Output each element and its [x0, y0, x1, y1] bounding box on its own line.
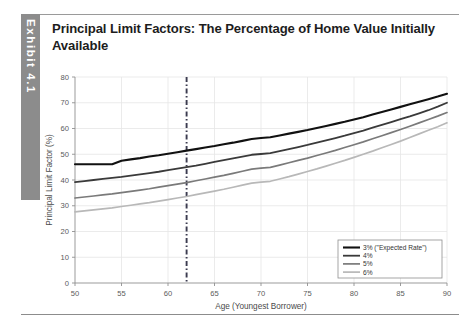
- x-axis-tick-label: 70: [257, 289, 265, 298]
- exhibit-spine: Exhibit 4.1: [21, 14, 40, 200]
- y-axis-tick-label: 70: [61, 98, 69, 107]
- y-axis-tick-label: 40: [61, 176, 69, 185]
- y-axis-tick-label: 80: [61, 73, 69, 82]
- x-axis-tick-label: 85: [396, 289, 404, 298]
- bottom-divider: [21, 314, 459, 315]
- y-axis-tick-label: 0: [65, 279, 69, 288]
- exhibit-spine-label: Exhibit 4.1: [21, 14, 40, 94]
- exhibit-page: Exhibit 4.1 Principal Limit Factors: The…: [0, 0, 469, 327]
- y-axis-tick-label: 60: [61, 124, 69, 133]
- legend-label-1: 3% ("Expected Rate"): [363, 244, 427, 252]
- legend-label-2: 4%: [363, 252, 373, 259]
- x-axis-tick-label: 90: [443, 289, 451, 298]
- x-axis-tick-label: 80: [350, 289, 358, 298]
- x-axis-tick-label: 75: [303, 289, 311, 298]
- chart-container: 01020304050607080505560657075808590Age (…: [40, 60, 459, 312]
- x-axis-tick-label: 65: [210, 289, 218, 298]
- title-block: Principal Limit Factors: The Percentage …: [40, 14, 459, 62]
- x-axis-tick-label: 60: [164, 289, 172, 298]
- page-title: Principal Limit Factors: The Percentage …: [52, 21, 453, 54]
- y-axis-tick-label: 50: [61, 150, 69, 159]
- y-axis-title: Principal Limit Factor (%): [45, 134, 54, 226]
- x-axis-tick-label: 55: [117, 289, 125, 298]
- line-chart: 01020304050607080505560657075808590Age (…: [40, 60, 459, 312]
- x-axis-title: Age (Youngest Borrower): [215, 302, 307, 311]
- y-axis-tick-label: 10: [61, 253, 69, 262]
- legend-label-4: 6%: [363, 269, 373, 276]
- y-axis-tick-label: 20: [61, 227, 69, 236]
- legend-label-3: 5%: [363, 260, 373, 267]
- x-axis-tick-label: 50: [71, 289, 79, 298]
- y-axis-tick-label: 30: [61, 201, 69, 210]
